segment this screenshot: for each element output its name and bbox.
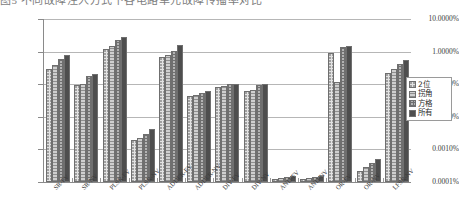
legend-label: 拐角 — [418, 90, 432, 98]
bar-group — [185, 19, 213, 182]
bar-group — [157, 19, 185, 182]
legend-label: 方格 — [418, 100, 432, 108]
y-tick-label: 1.0000% — [418, 48, 459, 56]
legend-item: 拐角 — [409, 90, 449, 99]
bar-group — [355, 19, 383, 182]
bar-group — [213, 19, 241, 182]
legend-swatch — [409, 81, 416, 88]
bar — [233, 84, 239, 182]
bar-group — [129, 19, 157, 182]
legend-label: 2位 — [418, 81, 430, 89]
legend-swatch — [409, 91, 416, 98]
figure-caption-text: 图5 不同故障注入方式下各电路单元故障传播率对比 — [0, 0, 459, 6]
y-tick-label: 10.0000% — [418, 15, 459, 23]
plot-area — [44, 19, 411, 182]
legend-item: 所有 — [409, 109, 449, 118]
bar-group — [298, 19, 326, 182]
bar — [262, 84, 268, 182]
chart-legend: 2位拐角方格所有 — [406, 77, 452, 121]
x-tick-mark — [213, 178, 214, 182]
legend-label: 所有 — [418, 109, 432, 117]
bar — [92, 74, 98, 182]
bar — [64, 55, 70, 182]
x-tick-mark — [129, 178, 130, 182]
bar-group — [44, 19, 72, 182]
y-tick-label: 0.0010% — [418, 145, 459, 153]
x-tick-mark — [355, 178, 356, 182]
x-tick-mark — [298, 178, 299, 182]
bar-group — [242, 19, 270, 182]
x-tick-mark — [185, 178, 186, 182]
chart-figure: 图5 不同故障注入方式下各电路单元故障传播率对比 10.0000%1.0000%… — [0, 0, 459, 220]
bar — [346, 46, 352, 182]
legend-swatch — [409, 100, 416, 107]
bar-group — [326, 19, 354, 182]
x-tick-mark — [100, 178, 101, 182]
bar — [121, 37, 127, 182]
x-tick-mark — [270, 178, 271, 182]
legend-item: 方格 — [409, 99, 449, 108]
bar-group — [72, 19, 100, 182]
x-tick-mark — [326, 178, 327, 182]
x-tick-mark — [72, 178, 73, 182]
y-tick-label: 0.0001% — [418, 178, 459, 186]
bar-group — [100, 19, 128, 182]
x-tick-mark — [242, 178, 243, 182]
bar-group — [270, 19, 298, 182]
legend-swatch — [409, 110, 416, 117]
legend-item: 2位 — [409, 80, 449, 89]
figure-caption-cropped: 图5 不同故障注入方式下各电路单元故障传播率对比 — [0, 0, 459, 11]
bar — [177, 45, 183, 182]
x-tick-mark — [383, 178, 384, 182]
x-tick-mark — [157, 178, 158, 182]
